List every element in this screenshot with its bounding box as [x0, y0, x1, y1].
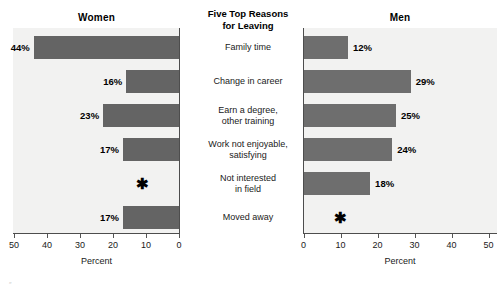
axis-tick-label-men: 40	[440, 240, 464, 250]
category-label-line1: Earn a degree,	[192, 105, 304, 116]
bar-women	[123, 206, 179, 229]
category-label-line2: other training	[192, 116, 304, 127]
axis-tick-women	[113, 234, 114, 238]
category-label-line1: Moved away	[192, 212, 304, 223]
bar-men	[304, 104, 397, 127]
axis-tick-label-women: 0	[167, 240, 191, 250]
axis-tick-label-men: 50	[477, 240, 500, 250]
category-label-line1: Change in career	[192, 76, 304, 87]
axis-caption-women: Percent	[13, 256, 180, 266]
axis-tick-women	[80, 234, 81, 238]
axis-tick-men	[378, 234, 379, 238]
suppressed-marker-women: ✱	[135, 172, 151, 195]
axis-tick-label-women: 10	[134, 240, 158, 250]
axis-tick-men	[415, 234, 416, 238]
bar-women	[123, 138, 179, 161]
axis-caption-men: Percent	[303, 256, 497, 266]
value-label-women: 17%	[77, 206, 119, 229]
category-label: Change in career	[192, 76, 304, 87]
value-label-men: 29%	[416, 70, 458, 93]
panel-title-women: Women	[13, 12, 180, 23]
category-label: Earn a degree,other training	[192, 105, 304, 126]
category-label-line1: Family time	[192, 42, 304, 53]
chart-heading: Five Top Reasons for Leaving	[196, 8, 300, 31]
category-label: Work not enjoyable,satisfying	[192, 139, 304, 160]
value-label-women: 23%	[57, 104, 99, 127]
value-label-women: 44%	[0, 36, 30, 59]
category-label-line1: Work not enjoyable,	[192, 139, 304, 150]
axis-tick-men	[489, 234, 490, 238]
axis-tick-women	[47, 234, 48, 238]
category-label-line2: satisfying	[192, 150, 304, 161]
axis-tick-men	[304, 234, 305, 238]
category-label: Family time	[192, 42, 304, 53]
axis-tick-label-women: 20	[101, 240, 125, 250]
suppressed-marker-men: ✱	[333, 206, 349, 229]
bar-women	[126, 70, 179, 93]
axis-horizontal-women	[13, 233, 180, 234]
category-label-line1: Not interested	[192, 173, 304, 184]
bar-women	[34, 36, 179, 59]
bar-women	[103, 104, 179, 127]
axis-vertical-women	[179, 28, 180, 234]
axis-tick-label-women: 50	[2, 240, 26, 250]
axis-tick-label-women: 40	[35, 240, 59, 250]
value-label-women: 16%	[80, 70, 122, 93]
bar-men	[304, 172, 371, 195]
axis-tick-women	[179, 234, 180, 238]
bar-men	[304, 70, 411, 93]
bar-men	[304, 36, 348, 59]
axis-tick-women	[146, 234, 147, 238]
grouped-bar-chart: Five Top Reasons for Leaving Women Men 4…	[0, 0, 500, 291]
axis-tick-men	[341, 234, 342, 238]
value-label-men: 18%	[375, 172, 417, 195]
value-label-men: 24%	[397, 138, 439, 161]
category-label: Not interestedin field	[192, 173, 304, 194]
chart-heading-line1: Five Top Reasons	[196, 8, 300, 20]
category-label: Moved away	[192, 212, 304, 223]
chart-heading-line2: for Leaving	[196, 20, 300, 32]
axis-tick-label-men: 20	[366, 240, 390, 250]
axis-tick-label-men: 0	[292, 240, 316, 250]
panel-title-men: Men	[303, 12, 497, 23]
axis-tick-label-men: 10	[329, 240, 353, 250]
axis-tick-label-women: 30	[68, 240, 92, 250]
axis-horizontal-men	[303, 233, 497, 234]
bar-men	[304, 138, 393, 161]
axis-tick-men	[452, 234, 453, 238]
value-label-men: 12%	[353, 36, 395, 59]
value-label-men: 25%	[401, 104, 443, 127]
axis-tick-women	[14, 234, 15, 238]
category-label-line2: in field	[192, 184, 304, 195]
footnote-mark: ″	[9, 281, 11, 288]
value-label-women: 17%	[77, 138, 119, 161]
axis-tick-label-men: 30	[403, 240, 427, 250]
axis-vertical-men	[303, 28, 304, 234]
